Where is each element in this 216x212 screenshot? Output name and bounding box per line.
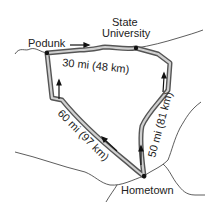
arrow-up-right-icon (162, 73, 166, 92)
podunk-label: Podunk (28, 37, 66, 49)
podunk-node (45, 51, 49, 55)
hometown-node (142, 174, 146, 178)
road-south (106, 185, 117, 202)
leg-podunk-university-label: 30 mi (48 km) (62, 56, 130, 75)
background-roads (15, 30, 205, 202)
road-west-podunk (15, 49, 47, 54)
university-label: University (102, 27, 151, 39)
hometown-label: Hometown (121, 184, 174, 196)
route-map-diagram: Podunk State University Hometown 30 mi (… (0, 0, 216, 212)
arrow-up-left-icon (57, 80, 61, 99)
leg-hometown-university-label: 50 mi (81 km) (145, 90, 174, 158)
arrow-east-icon (70, 43, 89, 47)
leg-hometown-podunk-label: 60 mi (97 km) (56, 107, 112, 163)
state-university-node (134, 46, 138, 50)
